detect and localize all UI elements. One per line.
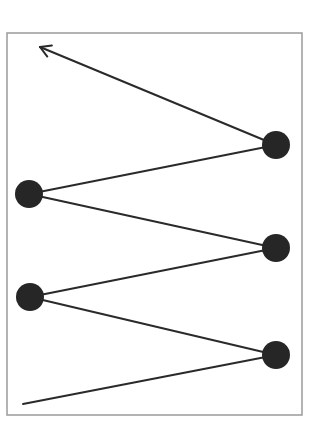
path-segment — [29, 145, 276, 194]
path-segment — [30, 248, 276, 297]
path-segment — [40, 47, 276, 145]
node-2 — [16, 283, 44, 311]
path-segment — [30, 297, 276, 355]
path-segment — [23, 355, 276, 404]
path-segments — [23, 47, 276, 404]
node-4 — [15, 180, 43, 208]
path-nodes — [15, 131, 290, 369]
path-segment — [29, 194, 276, 248]
node-1 — [262, 341, 290, 369]
node-3 — [262, 234, 290, 262]
node-5 — [262, 131, 290, 159]
zigzag-diagram — [0, 0, 317, 442]
